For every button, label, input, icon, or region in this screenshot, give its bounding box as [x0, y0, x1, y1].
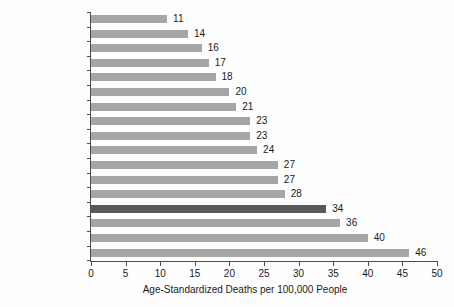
y-axis-tick	[87, 56, 91, 57]
y-axis-tick	[87, 70, 91, 71]
bar-value-label: 16	[208, 41, 219, 55]
x-axis-tick	[264, 262, 265, 266]
y-axis-tick	[87, 158, 91, 159]
bar	[91, 176, 278, 184]
y-axis-tick	[87, 27, 91, 28]
bar-row: Germany21	[91, 100, 437, 115]
bar-row: Portugal46	[91, 246, 437, 261]
x-axis-title: Age-Standardized Deaths per 100,000 Peop…	[0, 284, 454, 295]
bar	[91, 234, 368, 242]
y-axis-tick	[87, 187, 91, 188]
x-axis-tick	[402, 262, 403, 266]
x-axis-tick-label: 5	[123, 267, 129, 280]
x-axis-tick	[368, 262, 369, 266]
bar	[91, 15, 167, 23]
x-axis-tick-label: 45	[397, 267, 408, 280]
bar-value-label: 14	[194, 27, 205, 41]
bar	[91, 249, 409, 257]
bar-row: Netherlands28	[91, 187, 437, 202]
bar-row: Denmark27	[91, 173, 437, 188]
bar-value-label: 17	[215, 56, 226, 70]
bar	[91, 219, 340, 227]
y-axis-tick	[87, 114, 91, 115]
y-axis-tick	[87, 41, 91, 42]
y-axis-tick	[87, 12, 91, 13]
bar-row: Sweden20	[91, 85, 437, 100]
bar-row: Norway27	[91, 158, 437, 173]
bar-value-label: 46	[415, 246, 426, 260]
x-axis-tick-label: 25	[258, 267, 269, 280]
bar-value-label: 36	[346, 216, 357, 230]
bar-highlighted	[91, 205, 326, 213]
bar-chart: Finland11Austria14Italy16Switzerland17Au…	[0, 0, 454, 307]
y-axis-tick	[87, 129, 91, 130]
y-axis-tick	[87, 231, 91, 232]
bar	[91, 59, 209, 67]
bar-row: Austria14	[91, 27, 437, 42]
y-axis-tick	[87, 173, 91, 174]
bar	[91, 88, 229, 96]
x-axis-tick	[299, 262, 300, 266]
bar-row: United Kingdom36	[91, 216, 437, 231]
x-axis-tick	[229, 262, 230, 266]
bar-row: Australia18	[91, 70, 437, 85]
bar-value-label: 24	[263, 143, 274, 157]
bar	[91, 132, 250, 140]
bar-value-label: 27	[284, 173, 295, 187]
x-axis-tick	[437, 262, 438, 266]
bar	[91, 103, 236, 111]
bar	[91, 190, 285, 198]
x-axis-title-text: Age-Standardized Deaths per 100,000 Peop…	[143, 284, 348, 295]
bar-value-label: 23	[256, 114, 267, 128]
y-axis-tick	[87, 100, 91, 101]
bar-value-label: 23	[256, 129, 267, 143]
bar-value-label: 28	[291, 187, 302, 201]
bar-value-label: 40	[374, 231, 385, 245]
x-axis-tick-label: 20	[224, 267, 235, 280]
bar-row: Finland11	[91, 12, 437, 27]
bar-row: Canada23	[91, 129, 437, 144]
x-axis-tick-label: 10	[155, 267, 166, 280]
plot-area: Finland11Austria14Italy16Switzerland17Au…	[91, 12, 437, 261]
x-axis-tick-label: 40	[362, 267, 373, 280]
bar	[91, 117, 250, 125]
bar-value-label: 11	[173, 12, 183, 26]
bar-value-label: 34	[332, 202, 343, 216]
x-axis-tick-label: 50	[431, 267, 442, 280]
bar-value-label: 20	[235, 85, 246, 99]
x-axis-tick-label: 0	[88, 267, 94, 280]
x-axis-tick	[91, 262, 92, 266]
bar-row: France23	[91, 114, 437, 129]
x-axis-tick	[126, 262, 127, 266]
y-axis-tick	[87, 85, 91, 86]
bar	[91, 73, 216, 81]
bar	[91, 44, 202, 52]
x-axis-tick-label: 35	[328, 267, 339, 280]
bar-value-label: 27	[284, 158, 295, 172]
x-axis-tick-label: 15	[189, 267, 200, 280]
y-axis-tick	[87, 246, 91, 247]
bar-row: Japan40	[91, 231, 437, 246]
bar-row: Italy16	[91, 41, 437, 56]
y-axis-tick	[87, 216, 91, 217]
bar	[91, 146, 257, 154]
bar-row: Spain24	[91, 143, 437, 158]
bar-row: Switzerland17	[91, 56, 437, 71]
x-axis-tick	[333, 262, 334, 266]
y-axis-tick	[87, 143, 91, 144]
x-axis-tick-label: 30	[293, 267, 304, 280]
x-axis-tick	[160, 262, 161, 266]
bar	[91, 30, 188, 38]
y-axis-tick	[87, 202, 91, 203]
bar-value-label: 18	[222, 70, 233, 84]
x-axis-tick	[195, 262, 196, 266]
bar-value-label: 21	[242, 100, 253, 114]
bar-row: United States34	[91, 202, 437, 217]
bar	[91, 161, 278, 169]
